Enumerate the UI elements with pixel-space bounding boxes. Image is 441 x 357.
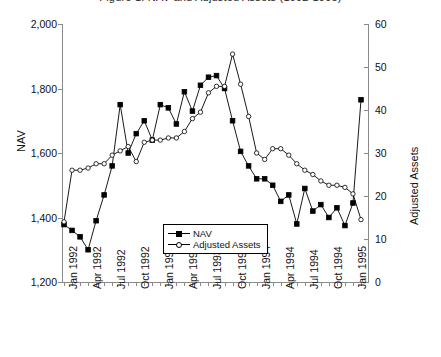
data-point — [319, 202, 324, 207]
data-point — [286, 193, 291, 198]
legend-marker-adjusted-assets-icon — [168, 240, 190, 249]
data-point — [351, 201, 356, 206]
data-point — [246, 164, 251, 169]
data-point — [118, 102, 123, 107]
y-axis-right-tick-label: 0 — [375, 277, 381, 288]
data-point — [94, 162, 98, 166]
data-point — [110, 164, 115, 169]
data-point — [230, 118, 235, 123]
data-point — [262, 157, 266, 161]
data-point — [335, 183, 339, 187]
data-point — [182, 89, 187, 94]
x-axis-tick — [281, 282, 282, 286]
data-point — [134, 159, 138, 163]
data-point — [230, 52, 234, 56]
legend-marker-nav-icon — [168, 229, 190, 238]
data-point — [359, 97, 364, 102]
data-point — [102, 162, 106, 166]
data-point — [295, 162, 299, 166]
data-point — [262, 177, 267, 182]
data-point — [174, 122, 179, 127]
data-point — [78, 235, 83, 240]
plot-area: 1,2001,4001,6001,8002,000 0102030405060 … — [62, 24, 369, 282]
x-axis-tick — [273, 282, 274, 286]
y-axis-right-tick-label: 40 — [375, 105, 387, 116]
x-axis-tick — [184, 282, 185, 286]
x-axis-tick — [329, 282, 330, 286]
data-point — [214, 73, 219, 78]
y-axis-left-tick-label: 1,800 — [31, 84, 57, 95]
data-point — [303, 186, 308, 191]
legend-label-nav: NAV — [193, 229, 212, 239]
y-axis-left-tick-label: 2,000 — [31, 19, 57, 30]
x-axis-tick — [104, 282, 105, 286]
data-point — [78, 168, 82, 172]
y-axis-left-title: NAV — [16, 130, 27, 152]
x-axis-tick — [345, 282, 346, 286]
y-axis-right-tick-label: 10 — [375, 234, 387, 245]
data-point — [327, 215, 332, 220]
data-point — [206, 75, 211, 80]
data-point — [294, 222, 299, 227]
data-point — [254, 151, 258, 155]
x-axis-tick — [88, 282, 89, 286]
data-point — [86, 247, 91, 252]
data-point — [238, 149, 243, 154]
y-axis-right-tick-label: 50 — [375, 62, 387, 73]
series-line-adjusted-assets — [64, 54, 361, 222]
data-point — [142, 118, 147, 123]
legend-item-adjusted-assets: Adjusted Assets — [168, 239, 261, 250]
x-axis-tick — [200, 282, 201, 286]
x-axis-tick — [128, 282, 129, 286]
x-axis-tick — [249, 282, 250, 286]
data-point — [190, 116, 194, 120]
y-axis-right-tick-label: 30 — [375, 148, 387, 159]
data-point — [134, 131, 139, 136]
x-axis-tick — [160, 282, 161, 286]
data-point — [278, 199, 283, 204]
x-axis-tick — [321, 282, 322, 286]
data-point — [327, 183, 331, 187]
data-point — [166, 136, 170, 140]
data-point — [254, 177, 259, 182]
data-point — [206, 91, 210, 95]
y-axis-left-tick-label: 1,200 — [31, 277, 57, 288]
y-axis-left-tick-label: 1,600 — [31, 148, 57, 159]
data-point — [158, 138, 162, 142]
data-point — [335, 206, 340, 211]
data-point — [198, 83, 203, 88]
data-point — [94, 218, 99, 223]
data-point — [182, 129, 186, 133]
data-point — [359, 217, 363, 221]
x-axis-tick — [257, 282, 258, 286]
x-axis-tick — [80, 282, 81, 286]
data-point — [343, 223, 348, 228]
data-point — [102, 193, 107, 198]
y-axis-left-tick-label: 1,400 — [31, 213, 57, 224]
x-axis-tick — [305, 282, 306, 286]
data-point — [246, 114, 250, 118]
data-point — [279, 147, 283, 151]
data-point — [126, 144, 130, 148]
data-point — [142, 140, 146, 144]
chart-legend: NAV Adjusted Assets — [163, 224, 268, 254]
y-axis-right-title: Adjusted Assets — [409, 147, 420, 225]
data-point — [222, 84, 226, 88]
data-point — [311, 209, 316, 214]
data-point — [311, 172, 315, 176]
data-point — [62, 220, 66, 224]
data-point — [190, 109, 195, 114]
data-point — [303, 168, 307, 172]
x-axis-tick — [64, 282, 65, 286]
x-axis-tick — [152, 282, 153, 286]
data-point — [118, 149, 122, 153]
x-axis-tick — [225, 282, 226, 286]
x-axis-tick — [176, 282, 177, 286]
x-axis-tick — [112, 282, 113, 286]
data-point — [70, 168, 74, 172]
data-point — [150, 138, 154, 142]
y-axis-right-tick-label: 20 — [375, 191, 387, 202]
data-point — [214, 84, 218, 88]
x-axis-tick — [353, 282, 354, 286]
data-point — [343, 185, 347, 189]
